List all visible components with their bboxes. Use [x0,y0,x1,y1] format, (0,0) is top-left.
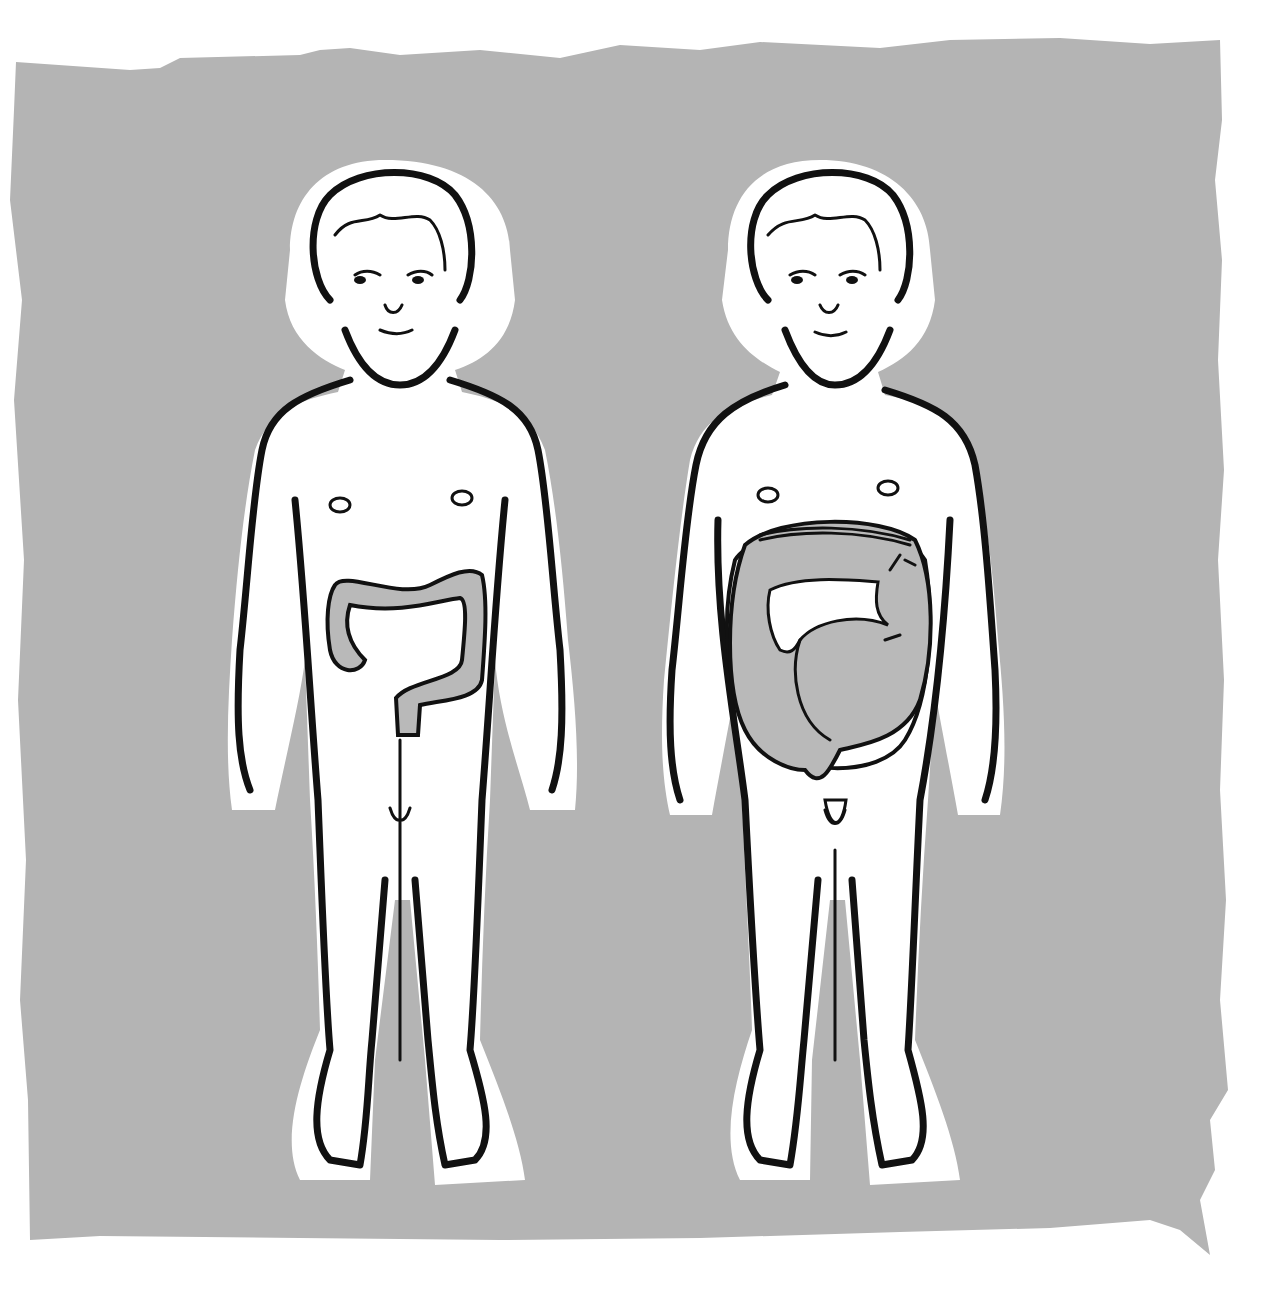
medical-illustration: Two children: normal colon vs. enlarged … [0,0,1277,1305]
torn-gray-background [10,38,1228,1255]
